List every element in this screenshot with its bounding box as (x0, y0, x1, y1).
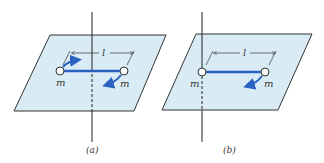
panel-b: l m m (b) (162, 12, 312, 155)
mass-right (261, 68, 269, 76)
mass-right-label: m (264, 78, 273, 89)
mass-left (198, 68, 206, 76)
mass-left-label: m (56, 77, 65, 88)
length-label: l (243, 47, 246, 58)
caption-a: (a) (86, 145, 99, 155)
caption-b: (b) (223, 145, 236, 155)
mass-left (56, 67, 64, 75)
mass-left-label: m (190, 78, 199, 89)
panel-a: l m m (a) (14, 12, 166, 155)
mass-right-label: m (120, 78, 129, 89)
length-label: l (102, 47, 105, 58)
plane (14, 35, 166, 111)
diagram-root: l m m (a) l m m (b) (0, 0, 324, 163)
rotation-axis-diagram: l m m (a) l m m (b) (0, 0, 324, 163)
mass-right (120, 67, 128, 75)
